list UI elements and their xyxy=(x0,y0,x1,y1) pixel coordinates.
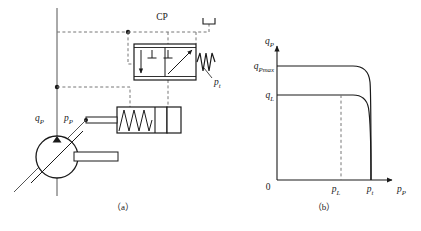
pilot-line-valve-left-feed xyxy=(128,32,134,64)
chart-y-tick-ql-sub: L xyxy=(269,95,274,102)
panel-a-caption: （a） xyxy=(93,200,153,213)
chart-x-tick-pt-sub: t xyxy=(371,189,374,196)
pump-flow-label-sub: P xyxy=(39,118,44,125)
spring-pressure-label: pt xyxy=(213,77,222,89)
panel-b-chart: qP pP 0 qPmax qL pL xyxy=(254,36,406,196)
cp-label: CP xyxy=(156,12,168,22)
chart-x-axis-title-sub: P xyxy=(401,189,406,196)
chart-x-tick-pl-sub: L xyxy=(335,189,340,196)
chart-y-tick-ql: qL xyxy=(265,90,274,102)
variable-displacement-pump xyxy=(31,131,118,183)
pressure-compensator-valve xyxy=(134,44,196,80)
chart-x-tick-pl: pL xyxy=(331,184,341,196)
curve-ql xyxy=(277,95,371,180)
spring-pressure-label-sub: t xyxy=(219,82,222,89)
pump-drive-shaft xyxy=(74,152,118,161)
pump-pressure-label-sub: P xyxy=(68,118,73,125)
svg-text:qP: qP xyxy=(35,113,44,125)
chart-x-tick-pt: pt xyxy=(366,184,375,196)
spring-label-leader xyxy=(204,68,212,78)
tank-symbol xyxy=(203,18,215,24)
svg-text:qPmax: qPmax xyxy=(254,61,274,73)
chart-y-axis-title-sub: P xyxy=(269,41,274,48)
svg-text:pt: pt xyxy=(213,77,222,89)
pump-flow-label: qP xyxy=(35,113,44,125)
displacement-actuator-cylinder xyxy=(86,107,181,133)
panel-b-caption: （b） xyxy=(294,200,354,213)
svg-text:pP: pP xyxy=(63,113,73,125)
svg-text:pt: pt xyxy=(366,184,375,196)
svg-text:pL: pL xyxy=(331,184,341,196)
curve-qpmax xyxy=(277,66,371,180)
panel-a-circuit: CP qP pP pt xyxy=(14,8,222,196)
figure-root: CP qP pP pt xyxy=(0,0,421,231)
chart-origin-label: 0 xyxy=(266,182,271,192)
chart-x-axis-title: pP xyxy=(396,184,406,196)
chart-y-tick-qpmax: qPmax xyxy=(254,61,274,73)
pump-pressure-label: pP xyxy=(63,113,73,125)
figure-svg: CP qP pP pt xyxy=(0,0,421,231)
svg-text:pP: pP xyxy=(396,184,406,196)
valve-spring xyxy=(197,53,215,71)
chart-y-axis-title: qP xyxy=(265,36,274,48)
svg-text:qL: qL xyxy=(265,90,274,102)
pilot-line-top-right xyxy=(128,24,209,32)
chart-y-tick-qpmax-sub: Pmax xyxy=(258,66,274,73)
svg-text:qP: qP xyxy=(265,36,274,48)
pilot-line-actuator xyxy=(57,87,130,107)
